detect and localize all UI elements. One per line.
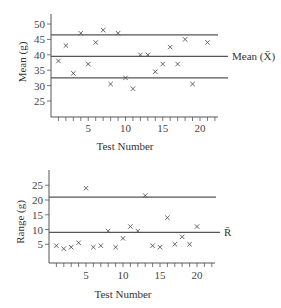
data-point <box>76 241 80 245</box>
data-point <box>205 40 209 44</box>
data-point <box>99 244 103 248</box>
y-tick-label: 25 <box>32 179 44 191</box>
data-point <box>108 82 112 86</box>
data-point <box>56 59 60 63</box>
y-tick-label: 30 <box>34 80 46 92</box>
y-tick-label: 10 <box>32 224 44 236</box>
data-point <box>187 242 191 246</box>
data-point <box>168 45 172 49</box>
data-point <box>173 242 177 246</box>
data-point <box>150 244 154 248</box>
y-tick-label: 20 <box>32 194 44 206</box>
mean-chart: 5101520253035404550Mean (X̄)Mean (g)Test… <box>16 14 275 152</box>
x-tick-label: 15 <box>157 122 169 134</box>
data-point <box>84 186 88 190</box>
x-axis-title: Test Number <box>97 140 154 152</box>
data-point <box>62 246 66 250</box>
y-tick-label: 50 <box>34 18 46 30</box>
x-tick-label: 20 <box>192 269 204 281</box>
y-tick-label: 45 <box>34 33 46 45</box>
data-point <box>190 82 194 86</box>
x-tick-label: 10 <box>120 122 132 134</box>
data-point <box>121 236 125 240</box>
data-point <box>94 40 98 44</box>
x-tick-label: 15 <box>155 269 167 281</box>
center-line-label: Mean (X̄) <box>232 50 275 63</box>
y-tick-label: 35 <box>34 64 46 76</box>
y-tick-label: 5 <box>38 238 44 250</box>
x-axis-title: Test Number <box>95 288 152 300</box>
data-point <box>128 224 132 228</box>
data-point <box>165 216 169 220</box>
data-point <box>175 62 179 66</box>
y-tick-label: 40 <box>34 49 46 61</box>
data-point <box>69 245 73 249</box>
x-tick-label: 10 <box>118 269 130 281</box>
data-point <box>86 62 90 66</box>
data-point <box>64 43 68 47</box>
data-point <box>91 245 95 249</box>
data-point <box>183 37 187 41</box>
data-point <box>71 71 75 75</box>
data-point <box>153 70 157 74</box>
center-line-label: R̄ <box>224 226 232 238</box>
y-tick-label: 25 <box>34 95 46 107</box>
data-point <box>113 245 117 249</box>
x-tick-label: 5 <box>83 269 89 281</box>
x-tick-label: 20 <box>195 122 207 134</box>
y-axis-title: Mean (g) <box>16 41 29 82</box>
data-point <box>131 86 135 90</box>
data-point <box>195 224 199 228</box>
data-point <box>180 235 184 239</box>
data-point <box>161 62 165 66</box>
data-point <box>158 245 162 249</box>
x-tick-label: 5 <box>86 122 92 134</box>
range-chart: 5101520510152025R̄Range (g)Test Number <box>14 170 232 300</box>
control-charts: 5101520253035404550Mean (X̄)Mean (g)Test… <box>0 0 281 308</box>
y-axis-title: Range (g) <box>14 200 27 244</box>
data-point <box>54 244 58 248</box>
y-tick-label: 15 <box>32 209 44 221</box>
data-point <box>101 28 105 32</box>
